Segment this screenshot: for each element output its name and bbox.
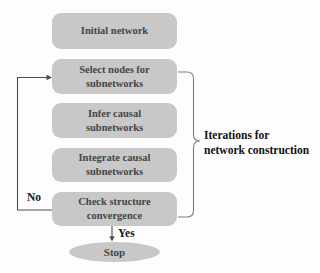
node-check-convergence-label: Check structure convergence — [62, 195, 167, 222]
iteration-bracket-label-line2: network construction — [204, 143, 309, 158]
node-integrate-causal-label: Integrate causal subnetworks — [62, 151, 167, 178]
iteration-bracket — [178, 72, 200, 217]
flowchart-canvas: Initial network Select nodes for subnetw… — [0, 0, 320, 273]
node-initial-network: Initial network — [52, 13, 177, 49]
yes-arrowhead-icon — [109, 236, 114, 241]
edge-label-no: No — [27, 192, 41, 204]
iteration-bracket-label: Iterations for network construction — [204, 128, 309, 158]
edge-label-yes: Yes — [118, 228, 135, 240]
iteration-bracket-label-line1: Iterations for — [204, 128, 309, 143]
node-stop: Stop — [69, 242, 160, 262]
node-initial-network-label: Initial network — [62, 24, 167, 38]
node-integrate-causal: Integrate causal subnetworks — [52, 148, 177, 182]
node-stop-label: Stop — [104, 246, 125, 258]
node-check-convergence: Check structure convergence — [52, 192, 177, 226]
node-select-nodes: Select nodes for subnetworks — [52, 59, 177, 94]
node-infer-causal: Infer causal subnetworks — [52, 103, 177, 138]
node-infer-causal-label: Infer causal subnetworks — [62, 107, 167, 134]
node-select-nodes-label: Select nodes for subnetworks — [62, 63, 167, 90]
